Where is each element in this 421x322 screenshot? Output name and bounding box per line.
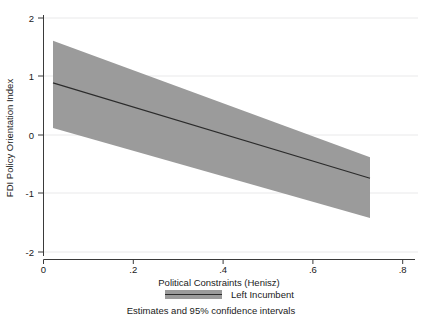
y-tick-label-neg1: -1	[26, 188, 34, 199]
x-tick-label-0-8: .8	[399, 264, 407, 275]
y-tick-label-2: 2	[29, 13, 34, 24]
y-tick-label-1: 1	[29, 71, 34, 82]
chart-canvas: 2 1 0 -1 -2 0 .2 .4 .6 .8 Political Cons…	[0, 0, 421, 322]
y-axis-title: FDI Policy Orientation Index	[4, 79, 15, 198]
y-axis-ticks	[38, 18, 44, 252]
confidence-interval-band	[53, 41, 370, 218]
chart-note: Estimates and 95% confidence intervals	[127, 305, 296, 316]
legend-label-left-incumbent: Left Incumbent	[231, 289, 294, 300]
y-tick-label-neg2: -2	[26, 247, 34, 258]
x-tick-label-0-2: .2	[129, 264, 137, 275]
chart-legend: Left Incumbent	[165, 289, 294, 300]
x-axis-title: Political Constraints (Henisz)	[158, 277, 279, 288]
x-tick-label-0-6: .6	[309, 264, 317, 275]
x-tick-label-0: 0	[41, 264, 46, 275]
x-tick-label-0-4: .4	[219, 264, 227, 275]
chart-figure: 2 1 0 -1 -2 0 .2 .4 .6 .8 Political Cons…	[0, 0, 421, 322]
y-tick-label-0: 0	[29, 130, 34, 141]
